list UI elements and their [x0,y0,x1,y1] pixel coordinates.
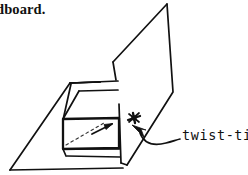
dashed-hidden-edge [66,123,104,145]
hidden-edge-dashed-line [66,123,104,145]
star-knot-icon [128,113,140,123]
arrow-head [104,124,113,130]
box-base-line [67,156,120,157]
upright-flap [113,4,173,165]
twist-tie-label: twist-tie [182,127,248,143]
arrow-icon [92,124,113,135]
upright-flap-top-left-edge [113,4,167,62]
box-lid-front-line-b [79,90,118,91]
base-panel-bottom-edge [10,168,123,170]
box-lid-edge [63,81,118,120]
upright-flap-bottom-edge [121,163,127,165]
line-drawing: twist-tie [0,0,248,175]
pointer-arrow-head [132,125,146,137]
box-front-face [63,118,119,149]
knot-center [132,116,137,121]
arrowhead-icon [132,125,146,137]
upright-flap-right-edge [127,4,173,165]
box-lid-left-slant [63,84,71,120]
base-panel-left-edge [10,83,70,170]
upright-flap-left-edge-upper [113,62,116,80]
box-lid-inner-slant [63,91,79,119]
figure-root: dboard. [0,0,248,175]
box-lid-front-line-a [71,81,118,83]
